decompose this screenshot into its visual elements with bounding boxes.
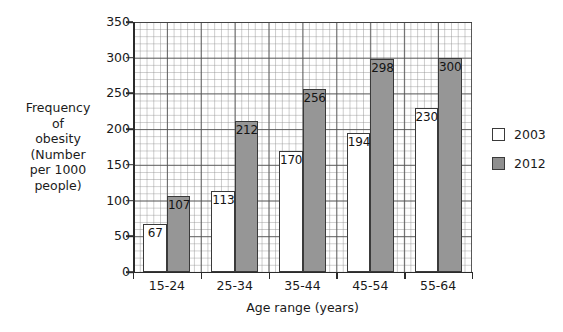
bar-2012-45-54: 298 (370, 59, 394, 272)
y-axis-tick-mark (126, 200, 133, 202)
bar-value-label: 300 (439, 61, 461, 74)
bar-2003-25-34: 113 (211, 191, 235, 272)
y-axis-title-line: Frequency (12, 100, 104, 116)
x-axis-tick-mark (404, 272, 405, 279)
y-axis-title-line: (Number (12, 147, 104, 163)
y-axis-tick-mark (126, 93, 133, 95)
legend: 2003 2012 (492, 128, 558, 186)
bar-2012-55-64: 300 (438, 58, 462, 272)
x-axis-tick-label: 25-34 (217, 279, 253, 293)
y-axis-tick-labels: 050100150200250300350 (96, 0, 130, 332)
legend-item-2012: 2012 (492, 157, 558, 170)
x-axis-tick-labels: 15-2425-3435-4445-5455-64 (133, 279, 472, 297)
x-axis-tick-mark (269, 272, 270, 279)
x-axis-tick-label: 55-64 (420, 279, 456, 293)
legend-swatch-icon (492, 157, 505, 170)
bar-2012-25-34: 212 (235, 121, 259, 272)
bar-value-label: 170 (280, 154, 302, 167)
bar-value-label: 194 (348, 136, 370, 149)
x-axis-tick-mark (336, 272, 337, 279)
bar-2003-55-64: 230 (415, 108, 439, 272)
x-axis-tick-mark (133, 272, 134, 279)
y-axis-tick-mark (126, 57, 133, 59)
y-axis-title-line: people) (12, 178, 104, 194)
y-axis-title-line: per 1000 (12, 162, 104, 178)
legend-swatch-icon (492, 128, 505, 141)
bar-2003-15-24: 67 (143, 224, 167, 272)
y-axis-tick-mark (126, 21, 133, 23)
legend-item-2003: 2003 (492, 128, 558, 141)
x-axis-title: Age range (years) (133, 300, 472, 315)
bar-value-label: 256 (304, 92, 326, 105)
bar-value-label: 230 (416, 111, 438, 124)
bar-chart: Frequency of obesity (Number per 1000 pe… (0, 0, 563, 332)
legend-item-label: 2003 (514, 128, 546, 141)
x-axis-tick-label: 35-44 (284, 279, 320, 293)
bar-value-label: 298 (371, 62, 393, 75)
y-axis-tick-mark (126, 271, 133, 273)
x-axis-tick-mark (472, 272, 473, 279)
y-axis-title: Frequency of obesity (Number per 1000 pe… (12, 100, 104, 193)
bar-2012-35-44: 256 (303, 89, 327, 272)
bar-series-container: 67107113212170256194298230300 (133, 22, 472, 272)
y-axis-title-line: obesity (12, 131, 104, 147)
bar-2012-15-24: 107 (167, 196, 191, 272)
bar-2003-45-54: 194 (347, 133, 371, 272)
bar-value-label: 107 (168, 199, 190, 212)
y-axis-title-line: of (12, 116, 104, 132)
legend-item-label: 2012 (514, 157, 546, 170)
bar-value-label: 212 (236, 124, 258, 137)
x-axis-tick-label: 15-24 (149, 279, 185, 293)
y-axis-tick-mark (126, 128, 133, 130)
x-axis-tick-label: 45-54 (352, 279, 388, 293)
y-axis-tick-mark (126, 164, 133, 166)
x-axis-tick-mark (201, 272, 202, 279)
bar-value-label: 113 (212, 194, 234, 207)
bar-value-label: 67 (144, 227, 166, 240)
bar-2003-35-44: 170 (279, 151, 303, 272)
y-axis-tick-mark (126, 235, 133, 237)
